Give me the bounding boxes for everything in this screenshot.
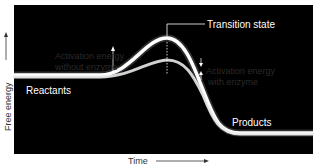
arrow-down-icon: [199, 63, 203, 67]
reactants-label: Reactants: [26, 85, 71, 96]
activation-without-enzyme-line1: Activation energy: [55, 51, 124, 62]
x-axis-label: Time: [128, 156, 148, 166]
activation-without-enzyme-line2: without enzyme: [55, 62, 118, 73]
transition-state-label: Transition state: [207, 19, 275, 30]
transition-state-leader: [167, 24, 205, 36]
activation-with-enzyme-line2: with enzyme: [208, 77, 258, 88]
x-axis-arrow-icon: [204, 159, 209, 163]
products-label: Products: [232, 117, 271, 128]
y-axis-arrow-icon: [4, 32, 8, 37]
activation-with-enzyme-line1: Activation energy: [206, 66, 275, 77]
y-axis-label: Free energy: [3, 71, 13, 131]
